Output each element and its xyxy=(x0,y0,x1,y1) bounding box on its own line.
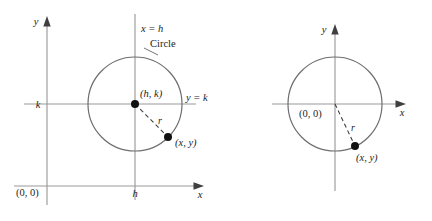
left-panel: y x (0, 0) h k x = h y = k Circle (h, k)… xyxy=(14,14,208,205)
left-circle-label-leader xyxy=(144,48,158,55)
left-radius-label: r xyxy=(158,115,162,126)
right-x-axis-label: x xyxy=(399,107,405,118)
left-y-tick-label-k: k xyxy=(36,99,41,110)
left-point-coordinate-label: (x, y) xyxy=(175,137,197,149)
left-origin-label: (0, 0) xyxy=(16,187,39,199)
left-y-axis-arrowhead xyxy=(43,16,50,27)
right-y-axis-label: y xyxy=(321,24,327,35)
left-x-tick-label-h: h xyxy=(132,188,137,199)
right-y-axis-arrowhead xyxy=(331,24,338,35)
right-point-coordinate-label: (x, y) xyxy=(356,152,378,164)
left-radius-segment xyxy=(135,104,168,137)
left-circle-label: Circle xyxy=(150,38,176,49)
left-y-axis-label: y xyxy=(33,16,39,27)
left-center-coordinate-label: (h, k) xyxy=(140,88,163,100)
left-x-axis-label: x xyxy=(197,189,203,200)
circle-equation-figure: y x (0, 0) h k x = h y = k Circle (h, k)… xyxy=(0,0,432,221)
left-center-point xyxy=(131,100,139,108)
right-point-on-circle xyxy=(351,142,359,150)
right-panel: y x (0, 0) (x, y) r xyxy=(272,24,406,191)
left-point-on-circle xyxy=(164,133,172,141)
right-radius-label: r xyxy=(351,122,355,133)
left-vertical-guide-label: x = h xyxy=(140,23,163,34)
left-horizontal-guide-label: y = k xyxy=(185,92,208,103)
right-origin-label: (0, 0) xyxy=(299,108,322,120)
